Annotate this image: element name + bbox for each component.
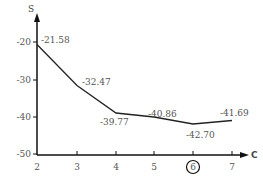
x-tick-label: 6 <box>190 162 196 172</box>
data-labels: -21.58 -32.47 -39.77 -40.86 -42.70 -41.6… <box>41 35 249 140</box>
x-axis-title: C <box>251 150 258 160</box>
x-axis-arrow-icon <box>240 152 249 158</box>
x-tick-label: 2 <box>34 162 40 172</box>
x-tick-label: 5 <box>151 162 157 172</box>
line-chart: S C -20 -30 -40 -50 2 3 4 5 6 7 -21.58 -… <box>0 0 263 181</box>
y-ticks: -20 -30 -40 -50 <box>17 37 38 159</box>
y-tick-label: -30 <box>17 75 32 85</box>
y-tick-label: -50 <box>17 149 32 159</box>
data-label: -32.47 <box>82 77 111 87</box>
x-tick-label: 7 <box>229 162 235 172</box>
x-tick-label: 3 <box>74 162 80 172</box>
data-label: -42.70 <box>186 130 215 140</box>
x-tick-label: 4 <box>113 162 119 172</box>
y-tick-label: -40 <box>17 112 32 122</box>
y-tick-label: -20 <box>17 37 32 47</box>
y-axis-arrow-icon <box>34 13 40 22</box>
data-label: -41.69 <box>220 108 249 118</box>
data-label: -39.77 <box>100 117 129 127</box>
y-axis-title: S <box>28 4 34 14</box>
data-label: -40.86 <box>148 109 177 119</box>
data-label: -21.58 <box>41 35 70 45</box>
series-line <box>37 45 232 125</box>
